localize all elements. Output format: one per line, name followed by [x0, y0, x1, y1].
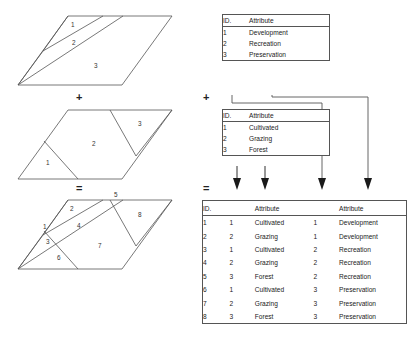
table-one-cell-attr: Development [249, 27, 329, 39]
result-cell-id3: 2 [314, 270, 339, 283]
table-two-cell-id: 1 [223, 122, 249, 134]
table-two-cell-attr: Forest [249, 144, 329, 155]
table-two-header-row: ID. Attribute [223, 110, 329, 122]
layer-two-region-3: 3 [138, 121, 142, 127]
table-row: 2 2 Grazing 1 Development [203, 229, 406, 242]
layer-one-region-3: 3 [94, 63, 98, 69]
arrow-table2-attr [261, 178, 269, 190]
result-cell-attr2: Recreation [339, 256, 406, 269]
overlay-result-polygons [18, 200, 172, 269]
result-cell-id2: 1 [229, 283, 254, 296]
table-row: 2 Grazing [223, 133, 329, 144]
table-row: 1 Cultivated [223, 122, 329, 134]
table-row: 6 1 Cultivated 3 Preservation [203, 283, 406, 296]
table-row: 5 3 Forest 2 Recreation [203, 270, 406, 283]
table-row: 1 1 Cultivated 1 Development [203, 216, 406, 230]
result-cell-attr2: Preservation [339, 310, 406, 323]
table-two-header-id: ID. [223, 110, 249, 122]
table-two-cell-id: 3 [223, 144, 249, 155]
table-row: 1 Development [223, 27, 329, 39]
result-cell-id: 1 [203, 216, 229, 230]
overlay-edge-f [110, 200, 136, 246]
table-row: 3 Forest [223, 144, 329, 155]
result-header-id: ID. [203, 201, 229, 216]
overlay-edge-c [18, 235, 43, 269]
result-cell-id2: 3 [229, 270, 254, 283]
table-one-header-attr: Attribute [249, 15, 329, 27]
result-header-attr2: Attribute [339, 201, 406, 216]
result-cell-id: 5 [203, 270, 229, 283]
layer-one-edge-a [43, 16, 68, 51]
result-cell-id: 8 [203, 310, 229, 323]
overlay-region-7: 7 [98, 243, 102, 249]
overlay-region-4: 4 [77, 223, 81, 229]
result-cell-attr2: Recreation [339, 243, 406, 256]
table-one-cell-id: 3 [223, 49, 249, 60]
table-one-header-row: ID. Attribute [223, 15, 329, 27]
result-header-id2 [229, 201, 254, 216]
overlay-region-6: 6 [57, 255, 61, 261]
result-header-id3 [314, 201, 339, 216]
result-cell-attr1: Grazing [255, 256, 314, 269]
layer-one-region-1: 1 [71, 22, 75, 28]
layer-two-region-1: 1 [46, 160, 50, 166]
overlay-outline [18, 200, 172, 269]
table-two-header-attr: Attribute [249, 110, 329, 122]
table-row: 2 Recreation [223, 38, 329, 49]
result-table-body: 1 1 Cultivated 1 Development 2 2 Grazing… [203, 216, 406, 324]
layer-one-outline [18, 16, 172, 85]
overlay-region-3: 3 [46, 239, 50, 245]
table-one-cell-id: 1 [223, 27, 249, 39]
result-cell-attr1: Grazing [255, 229, 314, 242]
layer-one-edge-c [18, 51, 43, 85]
table-one-cell-attr: Recreation [249, 38, 329, 49]
overlay-edge-e [44, 231, 78, 269]
result-cell-id2: 1 [229, 243, 254, 256]
arrow-table1-attr [364, 178, 372, 190]
result-cell-id3: 1 [314, 229, 339, 242]
result-cell-id: 2 [203, 229, 229, 242]
arrow-table1-id [318, 178, 326, 190]
operator-plus-tables: + [203, 92, 209, 103]
table-one-cell-attr: Preservation [249, 49, 329, 60]
arrow-table2-id [233, 178, 241, 190]
result-cell-id2: 2 [229, 229, 254, 242]
result-cell-attr2: Preservation [339, 296, 406, 309]
table-row: 3 1 Cultivated 2 Recreation [203, 243, 406, 256]
result-cell-attr2: Development [339, 216, 406, 230]
layer-one-region-2: 2 [72, 40, 76, 46]
layer-one-polygons [18, 16, 172, 85]
result-cell-attr1: Cultivated [255, 243, 314, 256]
table-row: 4 2 Grazing 2 Recreation [203, 256, 406, 269]
overlay-region-1: 1 [43, 224, 47, 230]
table-two-cell-id: 2 [223, 133, 249, 144]
overlay-result-table: ID. Attribute Attribute 1 1 Cultivated 1… [202, 200, 407, 324]
layer-two-edge-c [136, 110, 172, 156]
result-cell-id: 4 [203, 256, 229, 269]
attribute-table-two: ID. Attribute 1 Cultivated 2 Grazing 3 F… [222, 109, 330, 156]
result-cell-id2: 2 [229, 296, 254, 309]
result-cell-id3: 3 [314, 283, 339, 296]
table-one-cell-id: 2 [223, 38, 249, 49]
result-cell-id3: 3 [314, 296, 339, 309]
result-cell-id2: 3 [229, 310, 254, 323]
connector-arrow-stems [237, 166, 265, 178]
result-cell-attr2: Development [339, 229, 406, 242]
result-cell-id: 6 [203, 283, 229, 296]
result-cell-id: 7 [203, 296, 229, 309]
overlay-region-2: 2 [70, 206, 74, 212]
result-header-row: ID. Attribute Attribute [203, 201, 406, 216]
result-cell-attr2: Preservation [339, 283, 406, 296]
result-cell-attr1: Cultivated [255, 216, 314, 230]
table-one-header-id: ID. [223, 15, 249, 27]
result-cell-attr1: Cultivated [255, 283, 314, 296]
result-cell-id3: 2 [314, 256, 339, 269]
result-cell-attr2: Recreation [339, 270, 406, 283]
connector-arrows [233, 178, 372, 190]
result-cell-id: 3 [203, 243, 229, 256]
layer-two-edge-b [110, 110, 136, 156]
table-two-cell-attr: Cultivated [249, 122, 329, 134]
operator-equals-tables: = [203, 183, 209, 194]
result-cell-attr1: Forest [255, 310, 314, 323]
table-row: 3 Preservation [223, 49, 329, 60]
